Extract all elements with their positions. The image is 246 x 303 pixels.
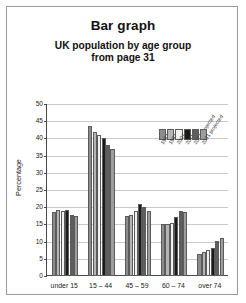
chart-subtitle: UK population by age group from page 31 bbox=[7, 40, 239, 64]
y-axis-tick-label: 25 bbox=[23, 186, 43, 193]
y-axis-tick-label: 50 bbox=[23, 100, 43, 107]
chart-card: Bar graph UK population by age group fro… bbox=[6, 6, 238, 295]
bar bbox=[147, 211, 151, 276]
x-axis-tick-label: 15 – 44 bbox=[82, 282, 118, 289]
plot-area: Percentage 05101520253035404550 under 15… bbox=[7, 95, 239, 295]
x-axis-tick-label: over 74 bbox=[192, 282, 228, 289]
x-axis-tick-label: 45 – 59 bbox=[119, 282, 155, 289]
y-axis-tick-label: 20 bbox=[23, 204, 43, 211]
y-axis-tick-mark bbox=[44, 190, 47, 191]
bar bbox=[110, 149, 114, 276]
y-axis-tick-label: 35 bbox=[23, 152, 43, 159]
y-axis-tick-mark bbox=[44, 156, 47, 157]
y-axis-tick-mark bbox=[44, 276, 47, 277]
bar bbox=[183, 212, 187, 276]
chart-subtitle-line-1: UK population by age group bbox=[7, 40, 239, 52]
bar bbox=[220, 238, 224, 276]
y-axis-label: Percentage bbox=[14, 143, 23, 213]
chart-title: Bar graph bbox=[7, 18, 239, 33]
y-axis-tick-mark bbox=[44, 224, 47, 225]
bar-group bbox=[52, 104, 79, 276]
y-axis-tick-mark bbox=[44, 104, 47, 105]
x-axis-tick-label: 60 – 74 bbox=[155, 282, 191, 289]
y-axis-tick-label: 45 bbox=[23, 118, 43, 125]
chart-subtitle-line-2: from page 31 bbox=[7, 52, 239, 64]
y-axis-tick-mark bbox=[44, 121, 47, 122]
y-axis-tick-mark bbox=[44, 259, 47, 260]
y-axis-tick-label: 5 bbox=[23, 255, 43, 262]
y-axis-tick-label: 40 bbox=[23, 135, 43, 142]
bar-group bbox=[125, 104, 152, 276]
x-axis-tick-label: under 15 bbox=[46, 282, 82, 289]
y-axis-tick-mark bbox=[44, 138, 47, 139]
y-axis-tick-mark bbox=[44, 173, 47, 174]
bar-group bbox=[88, 104, 115, 276]
chart-legend: 19811991200120112021 projected2031 proje… bbox=[159, 129, 239, 185]
y-axis-tick-mark bbox=[44, 207, 47, 208]
y-axis-tick-label: 0 bbox=[23, 272, 43, 279]
y-axis-tick-label: 30 bbox=[23, 169, 43, 176]
y-axis-tick-label: 10 bbox=[23, 238, 43, 245]
y-axis-tick-label: 15 bbox=[23, 221, 43, 228]
bar bbox=[74, 216, 78, 276]
y-axis-tick-mark bbox=[44, 242, 47, 243]
